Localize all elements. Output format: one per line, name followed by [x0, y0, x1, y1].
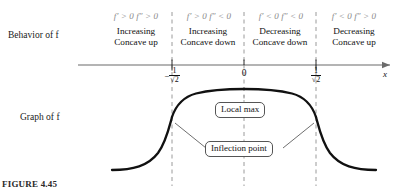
row-label-graph: Graph of f	[20, 112, 60, 122]
x-axis-variable-label: x	[383, 69, 387, 79]
function-curve-left	[112, 117, 172, 170]
callout-inflection-point-text: Inflection point	[211, 143, 267, 153]
derivative-signs-interval-3-text: f′ < 0 f″ < 0	[259, 11, 303, 21]
behavior-interval-3-line1: Decreasing	[259, 26, 300, 36]
derivative-signs-interval-1: f′ > 0 f″ > 0	[100, 11, 172, 21]
axis-tick-left-denominator: √2	[169, 76, 179, 84]
behavior-interval-1-line2: Concave up	[114, 37, 158, 47]
behavior-interval-2: Increasing Concave down	[172, 26, 244, 48]
axis-tick-label-left: −1√2	[154, 68, 190, 85]
axis-tick-right-fraction: 1√2	[311, 67, 321, 84]
callout-inflection-point: Inflection point	[205, 141, 273, 157]
behavior-interval-3: Decreasing Concave down	[244, 26, 316, 48]
behavior-interval-1: Increasing Concave up	[100, 26, 172, 48]
derivative-signs-interval-1-text: f′ > 0 f″ > 0	[114, 11, 158, 21]
behavior-interval-3-line2: Concave down	[253, 37, 308, 47]
derivative-signs-interval-2: f′ > 0 f″ < 0	[174, 11, 244, 21]
row-label-behavior-text: Behavior of f	[8, 30, 59, 40]
axis-tick-right-denominator: √2	[311, 76, 321, 84]
callout-local-max: Local max	[215, 102, 265, 118]
x-axis-variable-text: x	[383, 69, 387, 79]
callout-local-max-text: Local max	[221, 104, 259, 114]
derivative-signs-interval-4-text: f′ < 0 f″ > 0	[332, 11, 376, 21]
axis-origin-label-text: 0	[242, 68, 247, 78]
behavior-interval-4: Decreasing Concave up	[318, 26, 390, 48]
axis-origin-label: 0	[238, 68, 250, 78]
figure-caption-text: FIGURE 4.45	[2, 179, 57, 189]
behavior-interval-2-line2: Concave down	[181, 37, 236, 47]
figure-container: Behavior of f Graph of f f′ > 0 f″ > 0 I…	[0, 0, 409, 189]
behavior-interval-1-line1: Increasing	[117, 26, 155, 36]
leader-line-inflection-left	[175, 123, 206, 148]
behavior-interval-4-line2: Concave up	[332, 37, 376, 47]
axis-tick-label-right: 1√2	[302, 68, 330, 85]
derivative-signs-interval-4: f′ < 0 f″ > 0	[318, 11, 390, 21]
behavior-interval-2-line1: Increasing	[189, 26, 227, 36]
row-label-behavior: Behavior of f	[8, 30, 59, 40]
axis-tick-right-numerator: 1	[311, 67, 321, 74]
axis-tick-left-numerator: 1	[169, 67, 179, 74]
derivative-signs-interval-2-text: f′ > 0 f″ < 0	[187, 11, 231, 21]
row-label-graph-text: Graph of f	[20, 112, 60, 122]
axis-tick-left-fraction: 1√2	[169, 67, 179, 84]
leader-line-inflection-right	[283, 123, 314, 148]
behavior-interval-4-line1: Decreasing	[333, 26, 374, 36]
figure-caption: FIGURE 4.45	[2, 179, 57, 189]
function-curve-right	[316, 117, 376, 170]
derivative-signs-interval-3: f′ < 0 f″ < 0	[246, 11, 316, 21]
x-axis-arrowhead	[382, 62, 390, 68]
